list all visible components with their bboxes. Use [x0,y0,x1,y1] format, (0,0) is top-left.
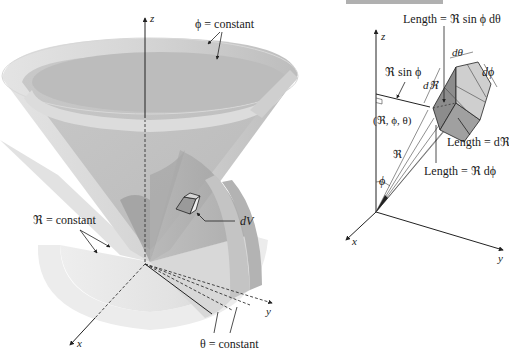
d-r-label: dℜ [423,79,439,91]
x-axis-right [346,212,376,240]
y-axis-label-right: y [497,252,503,264]
phi-constant-label: ϕ = constant [195,17,255,31]
x-axis-label-right: x [351,235,357,247]
z-axis-label-right: z [380,30,386,42]
phi-angle-label: ϕ [379,174,385,188]
d-phi-label: dϕ [482,65,494,79]
dV-label: dV [240,214,255,228]
right-figure: z x y ℜ sin ϕ ϕ ℜ [346,0,509,264]
length-r-sin-phi-dtheta-label: Length = ℜ sin ϕ dθ [403,12,501,26]
x-axis-label-left: x [76,337,82,349]
theta-constant-label: θ = constant [200,337,259,351]
r-sin-phi-leader [397,82,405,98]
r-constant-label: ℜ = constant [33,213,96,227]
y-axis-right [376,212,503,250]
x-axis-left [70,318,95,345]
theta-constant-leader-2 [230,307,237,333]
d-theta-label: dθ [452,46,464,58]
z-axis-label-left: z [149,12,155,24]
point-coordinates-label: (ℜ, ϕ, θ) [373,114,412,127]
header-strip [346,0,443,4]
length-dr-label: Length = dℜ [447,135,509,149]
left-figure: z x y ϕ = constant ℜ = constant dV θ = c… [0,12,298,351]
y-axis-label-left: y [265,305,271,317]
right-angle-marker [376,98,382,104]
r-sin-phi-line [376,94,430,107]
r-sin-phi-label: ℜ sin ϕ [385,65,421,79]
length-r-dphi-label: Length = ℜ dϕ [424,164,496,178]
diagram-canvas: z x y ϕ = constant ℜ = constant dV θ = c… [0,0,509,353]
r-radius-label: ℜ [393,148,402,160]
